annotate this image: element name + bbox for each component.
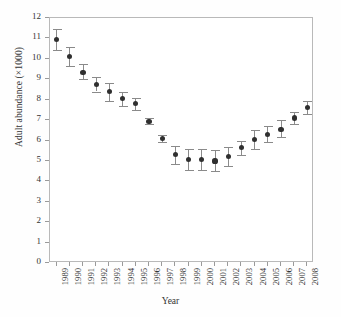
data-point-marker [54,37,59,42]
x-axis-tick-mark [254,262,255,266]
error-bar-cap-upper [211,150,220,151]
error-bar-cap-lower [277,137,286,138]
data-point-marker [305,105,310,110]
data-point-marker [265,132,270,137]
error-bar-cap-lower [158,142,167,143]
x-axis-title: Year [0,296,341,306]
x-axis-tick-mark [108,262,109,266]
data-point-marker [199,157,204,162]
plot-area [49,17,313,262]
x-axis-tick-mark [95,262,96,266]
error-bar-cap-lower [145,124,154,125]
y-axis-tick-label: 5 [37,153,42,166]
error-bar-cap-lower [79,79,88,80]
x-axis-tick-mark [82,262,83,266]
x-axis-tick-mark [122,262,123,266]
x-axis-tick-label: 1994 [126,268,136,285]
data-point-marker [212,158,217,163]
error-bar-cap-lower [290,124,299,125]
error-bar-cap-upper [132,98,141,99]
error-bar-cap-lower [53,50,62,51]
error-bar-cap-lower [105,101,114,102]
x-axis-tick-mark [56,262,57,266]
error-bar-cap-upper [290,112,299,113]
error-bar-cap-upper [237,141,246,142]
x-axis-tick-mark [306,262,307,266]
error-bar-cap-upper [198,149,207,150]
x-axis-tick-mark [188,262,189,266]
error-bar-cap-lower [251,149,260,150]
x-axis-tick-label: 2004 [258,268,268,285]
error-bar-cap-upper [251,130,260,131]
data-point-marker [252,137,257,142]
error-bar-cap-upper [264,126,273,127]
data-point-marker [226,154,231,159]
y-axis-tick-label: 9 [37,71,42,84]
x-axis-tick-mark [280,262,281,266]
x-axis-tick-label: 1989 [60,268,70,285]
error-bar-cap-lower [171,164,180,165]
x-axis-tick-label: 1999 [192,268,202,285]
x-axis-tick-mark [161,262,162,266]
data-point-marker [173,152,178,157]
error-bar-cap-lower [264,142,273,143]
data-point-marker [292,115,297,120]
x-axis-tick-mark [148,262,149,266]
error-bar-cap-lower [185,170,194,171]
data-point-marker [186,157,191,162]
x-axis-tick-label: 1995 [139,268,149,285]
y-axis-tick-label: 8 [37,92,42,105]
x-axis-tick-label: 2001 [218,268,228,285]
x-axis-tick-label: 1998 [178,268,188,285]
x-axis-tick-mark [135,262,136,266]
x-axis-tick-mark [240,262,241,266]
data-point-marker [107,89,112,94]
y-axis-tick-label: 1 [37,235,42,248]
x-axis-tick-label: 2003 [244,268,254,285]
data-point-marker [160,136,165,141]
y-axis-tick-mark [45,262,49,263]
x-axis-tick-label: 1996 [152,268,162,285]
error-bar-cap-lower [66,66,75,67]
data-point-marker [94,82,99,87]
data-point-marker [80,70,85,75]
chart-figure: Adult abundance (×1000) 0123456789101112… [0,0,341,317]
x-axis-tick-label: 1992 [99,268,109,285]
y-axis-tick-label: 7 [37,112,42,125]
x-axis-tick-mark [267,262,268,266]
x-axis-tick-mark [214,262,215,266]
data-point-marker [120,96,125,101]
x-axis-tick-label: 1993 [112,268,122,285]
y-axis-tick-label: 12 [32,10,41,23]
x-axis-tick-label: 1990 [73,268,83,285]
x-axis-tick-label: 2008 [310,268,320,285]
x-axis-tick-mark [201,262,202,266]
y-axis-tick-label: 6 [37,133,42,146]
y-axis-tick-label: 4 [37,173,42,186]
y-axis-tick-label: 10 [32,51,41,64]
x-axis-tick-label: 1991 [86,268,96,285]
x-axis-tick-mark [293,262,294,266]
x-axis-tick-label: 2005 [271,268,281,285]
error-bar-cap-lower [237,155,246,156]
x-axis-tick-label: 2000 [205,268,215,285]
x-axis-tick-mark [69,262,70,266]
error-bar-cap-upper [119,92,128,93]
x-axis-tick-label: 1997 [165,268,175,285]
data-point-marker [67,54,72,59]
error-bar-cap-upper [66,47,75,48]
x-axis-tick-mark [174,262,175,266]
y-axis-tick-label: 3 [37,194,42,207]
data-point-marker [239,145,244,150]
y-axis-tick-label: 2 [37,214,42,227]
error-bar-cap-lower [92,92,101,93]
error-bar-cap-lower [132,110,141,111]
error-bar-cap-lower [303,114,312,115]
error-bar-cap-upper [171,146,180,147]
data-point-marker [278,127,283,132]
error-bar-cap-lower [224,166,233,167]
error-bar-cap-lower [198,170,207,171]
error-bar-cap-upper [53,29,62,30]
error-bar-cap-upper [92,77,101,78]
data-point-marker [133,101,138,106]
